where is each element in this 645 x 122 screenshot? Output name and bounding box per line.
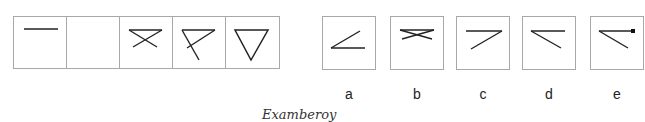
caption: Examberoy [262,107,336,122]
option-label-c: c [456,86,510,102]
diagonals-figure [173,17,226,68]
option-c[interactable] [456,16,510,70]
option-label-e: e [590,86,644,102]
x-cross-figure [120,17,173,68]
sequence-row [13,16,280,69]
angle-figure [323,17,377,71]
flat-x-figure [391,17,445,71]
option-label-d: d [522,86,576,102]
sequence-cell-1 [14,17,67,68]
horizontal-line-figure [14,17,67,68]
sequence-cell-2-blank [67,17,120,68]
sequence-cell-5 [226,17,279,68]
option-label-a: a [322,86,376,102]
sequence-cell-4 [173,17,226,68]
option-b[interactable] [390,16,444,70]
option-d[interactable] [522,16,576,70]
diagonal-down-right-figure [523,17,577,71]
diagonal-with-dot-figure [591,17,645,71]
diagonal-down-left-figure [457,17,511,71]
inverted-triangle-figure [226,17,279,68]
sequence-cell-3 [120,17,173,68]
option-a[interactable] [322,16,376,70]
dot-marker [631,29,635,33]
option-label-b: b [390,86,444,102]
option-e[interactable] [590,16,644,70]
